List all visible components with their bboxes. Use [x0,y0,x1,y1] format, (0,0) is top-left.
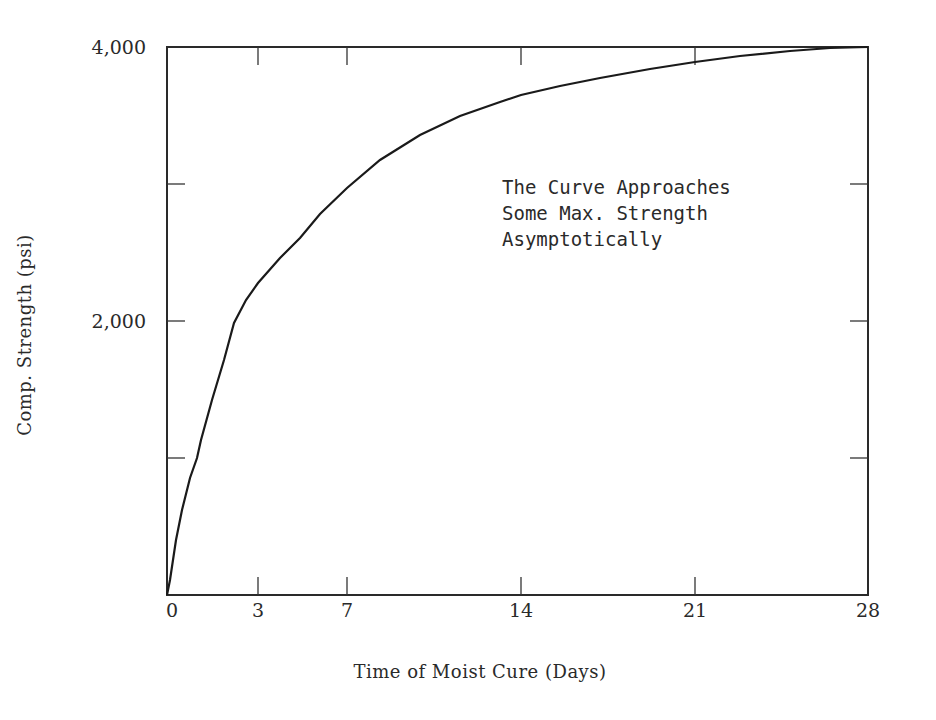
axis-ticks [167,47,868,595]
plot-frame [167,47,868,595]
annotation: The Curve Approaches Some Max. Strength … [502,176,731,250]
y-tick-label: 2,000 [92,310,146,332]
annotation-line-3: Asymptotically [502,228,662,250]
x-tick-label: 0 [166,599,178,621]
x-tick-label: 7 [341,599,353,621]
x-tick-label: 3 [252,599,264,621]
x-axis-title: Time of Moist Cure (Days) [353,661,606,682]
y-tick-label: 4,000 [92,36,146,58]
annotation-line-1: The Curve Approaches [502,176,731,198]
x-tick-label: 28 [856,599,880,621]
x-tick-label: 14 [509,599,533,621]
chart: 037142128 2,0004,000 Time of Moist Cure … [0,0,936,720]
y-axis-title: Comp. Strength (psi) [14,234,35,436]
annotation-line-2: Some Max. Strength [502,202,708,224]
strength-curve [167,47,868,595]
x-tick-labels: 037142128 [166,599,880,621]
x-tick-label: 21 [683,599,707,621]
y-tick-labels: 2,0004,000 [92,36,146,332]
